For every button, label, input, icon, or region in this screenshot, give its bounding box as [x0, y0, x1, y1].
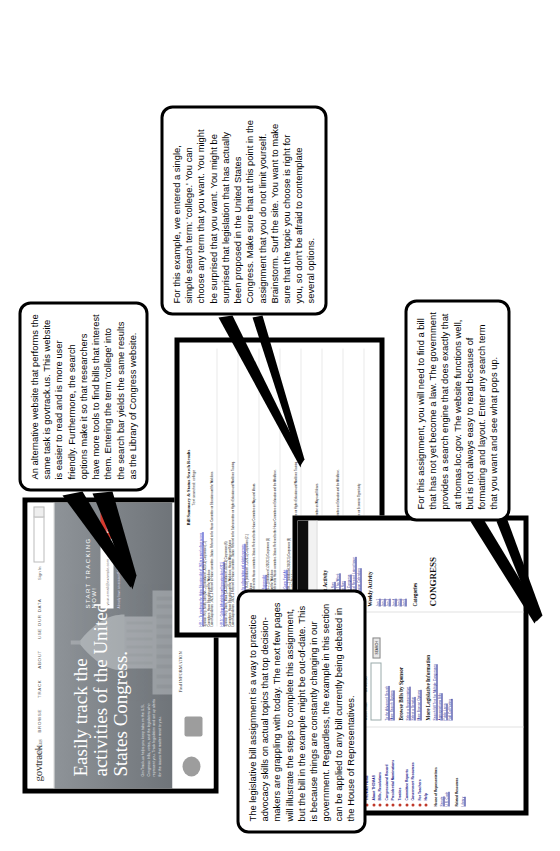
start-tracking-panel: START TRACKING NOW! Register Already hav… [84, 512, 120, 608]
select-senator-link[interactable]: Select a Senator [410, 618, 414, 720]
callout-govtrack: An alternative website that performs the… [18, 301, 148, 491]
nav-item-about[interactable]: ABOUT [36, 650, 41, 669]
search-icon[interactable] [33, 506, 44, 517]
results-subheading: Text searched: college [191, 342, 195, 632]
thomas-nav-item[interactable]: Treaties [397, 731, 401, 806]
weekly-activity-heading: Weekly Activity [366, 525, 372, 606]
result-sponsor: Sponsor: Rep. Williams, Anne [FL-21] (in… [266, 348, 270, 626]
result-sponsor: Sponsor: Rep. Brown, Michael [OH-11] (in… [287, 348, 291, 626]
weekly-row[interactable]: Jan 4 [391, 525, 395, 606]
sidebar-link-senate[interactable]: Senate [439, 731, 443, 806]
page-root: govtrack.us HOME BROWSE TRACK ABOUT USE … [0, 0, 560, 851]
nav-item-use-our-data[interactable]: USE OUR DATA [36, 598, 41, 639]
thomas-nav-item[interactable]: Presidential Nominations [390, 731, 394, 806]
advanced-search-link[interactable]: To the Advanced Search [384, 618, 388, 720]
callout-college-text: For this example, we entered a single, s… [170, 117, 317, 303]
appropriations-bills-link[interactable]: Appropriations Bills [437, 618, 441, 720]
weekly-row[interactable]: Jan 2 [380, 525, 384, 606]
result-status: Latest Major Action: 1/6/2015 Referred t… [210, 348, 214, 626]
roll-call-voting-link[interactable]: Roll Call Voting [447, 618, 451, 720]
result-title[interactable]: H.R.24 : College Affordability and Innov… [220, 348, 224, 626]
select-representative-link[interactable]: Select a Representative [405, 618, 409, 720]
search-input[interactable] [33, 516, 44, 562]
weekly-rows: Jan 1Jan 2Jan 3Jan 4Jan 5Jan 6 [375, 525, 405, 606]
callout-govtrack-text: An alternative website that performs the… [28, 313, 138, 479]
thomas-nav-item[interactable]: Government Resources [410, 731, 414, 806]
callout-college: For this example, we entered a single, s… [160, 105, 327, 315]
search-button[interactable]: SEARCH [372, 637, 380, 658]
email-field[interactable] [100, 538, 113, 608]
result-status: Latest Major Action: 1/20/2015 Referred … [273, 348, 277, 626]
find-information-heading: Find INFORMATION [177, 651, 182, 692]
congress-footer: CONGRESS [427, 525, 437, 606]
govtrack-hero: Easily track the activities of the Unite… [54, 502, 172, 788]
search-multiple-congresses-link[interactable]: Search Bill Text for Multiple Congresses [432, 618, 436, 720]
categories-heading: Categories [411, 525, 417, 606]
result-sponsor: Sponsor: Rep. Davis, Maria [CA-33] (intr… [224, 348, 228, 626]
callout-intro-text: The legislative bill assignment is a way… [246, 601, 356, 821]
weekly-row[interactable]: Jan 5 [396, 525, 400, 606]
result-status: Latest Major Action: 1/8/2015 Referred t… [231, 348, 235, 626]
browse-heading: Browse Bills by Sponsor [397, 618, 403, 720]
result-title[interactable]: H.R.108 : To provide tax credits for col… [241, 348, 245, 626]
result-title[interactable]: H.R.391 : Community College to Career Fu… [283, 348, 287, 626]
weekly-row[interactable]: Jan 1 [375, 525, 379, 606]
thomas-nav-list[interactable]: THOMAS HomeAbout THOMASBills, Resolution… [364, 731, 427, 806]
more-legislative-heading: More Legislative Information [424, 618, 430, 720]
result-row[interactable]: H.R.237 : College Student Loan Fairness … [262, 348, 280, 626]
result-row[interactable]: H.R.1 : To reauthorize the Higher Educat… [199, 348, 217, 626]
nav-item-browse[interactable]: BROWSE [36, 708, 41, 732]
document-icon [184, 716, 202, 736]
thomas-nav-item[interactable]: Help [423, 731, 427, 806]
related-section-heading: Related Resources [454, 731, 458, 806]
house-section-heading: House of Representatives [433, 731, 437, 806]
result-sponsor: Sponsor: Rep. Smith, John [NY-12] (intro… [203, 348, 207, 626]
sign-in-link[interactable]: Sign In [36, 566, 41, 580]
start-tracking-heading: START TRACKING NOW! [84, 512, 96, 608]
result-status: Latest Major Action: 1/12/2015 Referred … [252, 348, 256, 626]
weekly-row[interactable]: Jan 3 [385, 525, 389, 606]
result-sponsor: Sponsor: Rep. Johnson, Robert [TX-07] (i… [245, 348, 249, 626]
govtrack-nav[interactable]: HOME BROWSE TRACK ABOUT USE OUR DATA [36, 598, 41, 768]
weekly-row[interactable]: Jan 6 [401, 525, 405, 606]
sidebar-link-library[interactable]: Library [460, 731, 464, 806]
callout-thomas: For this assignment, you will need to fi… [404, 299, 510, 521]
public-laws-link[interactable]: Public Laws [442, 618, 446, 720]
results-heading: Bill Summary & Status Search Results [185, 342, 190, 632]
nav-item-home[interactable]: HOME [36, 743, 41, 759]
callout-thomas-text: For this assignment, you will need to fi… [414, 311, 500, 509]
nav-item-track[interactable]: TRACK [36, 679, 41, 697]
thomas-nav-item[interactable]: Bills, Resolutions [377, 731, 381, 806]
hero-body: GovTrack.us helps you keep tabs on the U… [140, 698, 162, 776]
register-button[interactable]: Register [100, 512, 113, 538]
hero-title: Easily track the activities of the Unite… [70, 586, 130, 776]
result-row[interactable]: H.R.108 : To provide tax credits for col… [241, 348, 259, 626]
thomas-nav-item[interactable]: For Teachers [417, 731, 421, 806]
more-search-options-link[interactable]: More Search Options [389, 618, 393, 720]
more-browse-options-link[interactable]: More Browse Options [416, 618, 420, 720]
thomas-nav-item[interactable]: Committee Reports [404, 731, 408, 806]
track-note[interactable]: Already have an account? Sign in [116, 512, 120, 608]
rotated-worksheet: govtrack.us HOME BROWSE TRACK ABOUT USE … [0, 0, 560, 851]
thomas-nav-item[interactable]: About THOMAS [371, 731, 375, 806]
thomas-nav-item[interactable]: Congressional Record [384, 731, 388, 806]
result-title[interactable]: H.R.1 : To reauthorize the Higher Educat… [199, 348, 203, 626]
result-row[interactable]: H.R.24 : College Affordability and Innov… [220, 348, 238, 626]
callout-intro: The legislative bill assignment is a way… [236, 589, 366, 833]
person-icon [182, 756, 200, 776]
sidebar-link-us-code[interactable]: U.S. Code [444, 731, 448, 806]
bill-search-input[interactable] [370, 662, 381, 720]
govtrack-header: govtrack.us HOME BROWSE TRACK ABOUT USE … [27, 502, 54, 788]
result-title[interactable]: H.R.237 : College Student Loan Fairness … [262, 348, 266, 626]
